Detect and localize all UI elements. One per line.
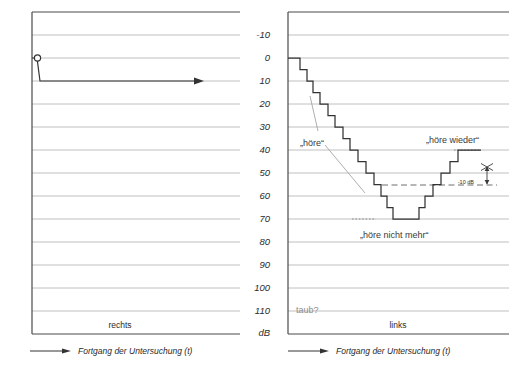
- db-axis: -10 0 10 20 30 40 50 60 70 80 90 100 110…: [254, 29, 271, 338]
- panel-rechts: rechts Fortgang der Untersuchung (t): [30, 12, 240, 356]
- axis-tick-90: 90: [259, 259, 270, 270]
- axis-tick-10: 10: [259, 75, 270, 86]
- rechts-trace: [32, 58, 200, 81]
- rechts-trace-arrowhead: [194, 78, 204, 85]
- axis-tick-0: 0: [265, 52, 271, 63]
- axis-tick-50: 50: [259, 167, 270, 178]
- minus-10-db-dimension: [481, 164, 493, 185]
- panel-right-ear-label: links: [389, 320, 406, 330]
- axis-tick--10: -10: [256, 29, 270, 40]
- axis-tick-60: 60: [259, 190, 270, 201]
- panel-left-caption: Fortgang der Untersuchung (t): [78, 346, 193, 356]
- axis-tick-40: 40: [259, 144, 270, 155]
- axis-tick-30: 30: [259, 121, 270, 132]
- grid-lines-right: [288, 35, 509, 311]
- annotation-taub: taub?: [296, 305, 319, 315]
- axis-tick-110: 110: [255, 305, 271, 316]
- minus-10-db-label: -10 dB: [458, 179, 475, 185]
- start-marker-circle: [34, 55, 40, 61]
- axis-tick-20: 20: [258, 98, 270, 109]
- panel-left-caption-arrow: [30, 348, 71, 353]
- axis-tick-80: 80: [259, 236, 270, 247]
- panel-links: -10 dB „höre“ „höre wieder“ „höre nicht …: [288, 12, 509, 356]
- panel-right-caption-arrow: [288, 348, 329, 353]
- audiogram-figure: rechts Fortgang der Untersuchung (t) -10…: [0, 0, 519, 369]
- annotation-hoere-wieder: „höre wieder“: [426, 135, 479, 145]
- axis-tick-70: 70: [259, 213, 270, 224]
- panel-left-ear-label: rechts: [108, 320, 131, 330]
- figure-root: rechts Fortgang der Untersuchung (t) -10…: [0, 0, 519, 369]
- grid-lines-left: [32, 35, 240, 311]
- annotation-hoere-nicht-mehr: „höre nicht mehr“: [360, 230, 429, 240]
- axis-tick-100: 100: [254, 282, 271, 293]
- panel-right-caption: Fortgang der Untersuchung (t): [336, 346, 451, 356]
- axis-unit-label: dB: [258, 327, 270, 338]
- annotation-hoere: „höre“: [300, 138, 324, 148]
